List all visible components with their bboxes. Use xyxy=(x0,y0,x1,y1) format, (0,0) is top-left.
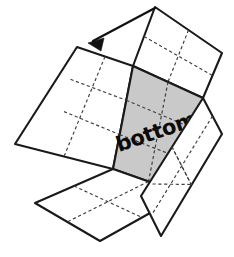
box-net-diagram: bottom xyxy=(0,0,234,257)
panel-left xyxy=(15,47,133,169)
panel-left-outline xyxy=(15,47,133,169)
net-canvas: bottom xyxy=(0,0,234,257)
